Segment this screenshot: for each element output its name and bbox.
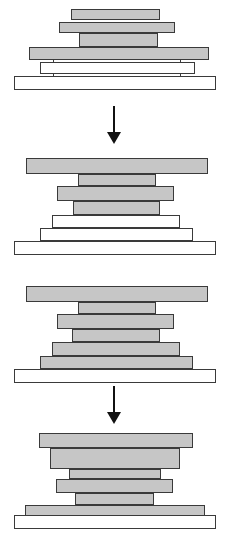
bar-4-7 xyxy=(14,515,216,529)
arrow-stage3-to-stage4 xyxy=(105,386,123,424)
bar-4-5 xyxy=(75,493,154,505)
stage-4-group xyxy=(0,0,230,533)
arrow-stage1-to-stage2 xyxy=(105,106,123,144)
bar-4-1 xyxy=(39,433,193,448)
bar-4-4 xyxy=(56,479,173,493)
bar-4-3 xyxy=(69,469,161,479)
bar-4-2 xyxy=(50,448,180,469)
arrow-stage3-to-stage4-head xyxy=(107,412,121,424)
figure-canvas xyxy=(0,0,230,533)
arrow-stage1-to-stage2-shaft xyxy=(113,106,115,132)
arrow-stage1-to-stage2-head xyxy=(107,132,121,144)
arrow-stage3-to-stage4-shaft xyxy=(113,386,115,412)
